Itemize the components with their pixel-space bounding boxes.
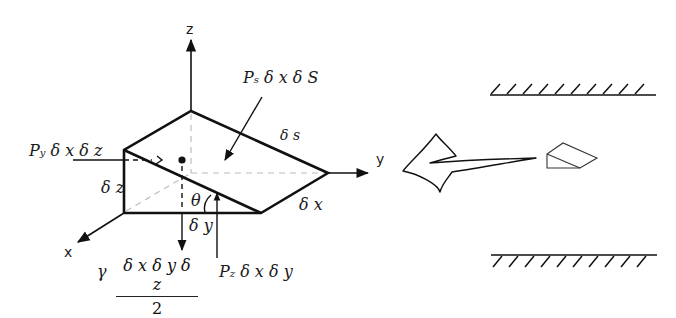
ps-symbol: P (243, 68, 254, 87)
dy-label: δ y (189, 218, 213, 234)
py-force-label: Py δ x δ z (29, 143, 102, 159)
y-axis-label: y (376, 152, 384, 166)
z-axis-label: z (186, 22, 193, 36)
pz-force-label: Pz δ x δ y (219, 264, 293, 280)
top-wall (490, 84, 656, 95)
gamma-label: γ (97, 264, 107, 280)
bottom-wall (491, 255, 657, 267)
ds-label: δ s (280, 128, 300, 142)
weight-numerator: δ x δ y δ z (116, 256, 198, 297)
pz-symbol: P (219, 262, 230, 281)
theta-angle-arc (205, 195, 211, 213)
py-rest: δ x δ z (45, 141, 102, 160)
flow-arrow-icon (403, 134, 536, 192)
inset-wedge (547, 143, 597, 168)
theta-label: θ (191, 193, 201, 209)
ps-rest: δ x δ S (259, 68, 319, 87)
x-axis-arrow (78, 213, 124, 242)
ps-force-label: Ps δ x δ S (243, 70, 319, 86)
pz-rest: δ x δ y (235, 262, 293, 281)
dz-label: δ z (101, 180, 124, 196)
weight-fraction: δ x δ y δ z 2 (116, 256, 198, 318)
weight-denominator: 2 (116, 297, 198, 318)
dx-label: δ x (299, 197, 323, 213)
py-arrowhead-icon (156, 156, 162, 164)
hidden-edge-diagonal (126, 173, 191, 211)
x-axis-label: x (64, 245, 72, 259)
centroid-dot (178, 156, 185, 163)
py-symbol: P (29, 141, 40, 160)
